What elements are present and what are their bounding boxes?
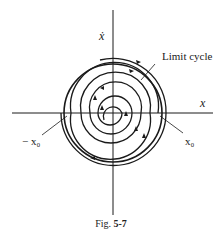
phase-plane-figure: ẋ x Limit cycle − x₀ x₀ xyxy=(0,0,222,237)
y-axis-label: ẋ xyxy=(98,29,105,43)
pos-x0-label: x₀ xyxy=(185,135,195,147)
caption-prefix: Fig. xyxy=(95,218,111,229)
limit-cycle-label: Limit cycle xyxy=(162,50,213,62)
x-axis-label: x xyxy=(199,96,206,110)
caption-number: 5-7 xyxy=(114,218,127,229)
neg-x0-leader xyxy=(42,116,67,135)
neg-x0-label: − x₀ xyxy=(22,135,40,147)
figure-caption: Fig. 5-7 xyxy=(0,218,222,229)
